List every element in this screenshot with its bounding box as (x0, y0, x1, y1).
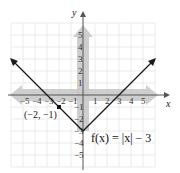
svg-text:−2: −2 (56, 96, 66, 106)
svg-text:3: 3 (78, 54, 83, 64)
svg-text:5: 5 (78, 30, 83, 40)
svg-text:−5: −5 (74, 150, 84, 160)
svg-text:4: 4 (129, 96, 134, 106)
svg-text:1: 1 (78, 78, 83, 88)
svg-text:3: 3 (117, 96, 122, 106)
svg-text:5: 5 (141, 96, 146, 106)
svg-text:−1: −1 (74, 102, 84, 112)
y-axis-arrow-icon (80, 11, 86, 17)
svg-text:−4: −4 (32, 96, 42, 106)
x-axis-label: x (165, 98, 171, 109)
chart-canvas: x y −5 −4 −3 −2 −1 1 2 3 4 5 5 4 3 2 1 −… (0, 0, 180, 173)
point-marker (57, 105, 61, 109)
svg-text:−5: −5 (20, 96, 30, 106)
svg-text:−2: −2 (74, 114, 84, 124)
svg-text:4: 4 (78, 42, 83, 52)
function-label: f(x) = |x| − 3 (91, 131, 151, 145)
svg-text:1: 1 (93, 96, 98, 106)
svg-text:−4: −4 (74, 138, 84, 148)
svg-text:2: 2 (78, 66, 83, 76)
y-axis-label: y (71, 7, 77, 18)
point-label: (−2, −1) (24, 109, 57, 121)
